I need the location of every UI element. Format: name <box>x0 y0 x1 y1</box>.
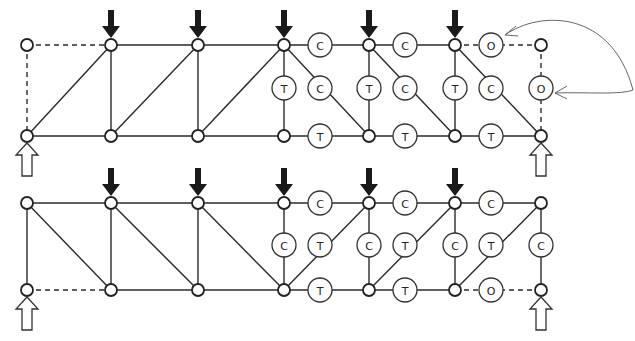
reaction-arrow-icon <box>16 297 38 330</box>
force-label-text: T <box>451 83 459 96</box>
force-label-text: T <box>487 131 495 144</box>
truss-joint <box>449 130 461 142</box>
truss-joint <box>192 197 204 209</box>
force-label: C <box>308 191 332 215</box>
force-label-text: T <box>401 131 409 144</box>
force-label-text: C <box>316 83 324 96</box>
truss-joint <box>21 39 33 51</box>
force-label: T <box>393 124 417 148</box>
force-label: C <box>393 76 417 100</box>
truss-joint <box>192 284 204 296</box>
truss-joint <box>105 197 117 209</box>
load-arrow-icon <box>275 168 293 196</box>
load-arrow-icon <box>275 10 293 38</box>
truss-joint <box>449 197 461 209</box>
force-label: C <box>272 233 296 257</box>
truss-joint <box>278 197 290 209</box>
truss-member <box>27 45 111 136</box>
truss-member <box>198 45 284 136</box>
force-label: C <box>393 33 417 57</box>
truss-member <box>111 45 198 136</box>
load-arrow-icon <box>189 168 207 196</box>
force-label-text: C <box>280 240 288 253</box>
force-label: C <box>443 233 467 257</box>
force-label-text: T <box>365 83 373 96</box>
load-arrow-icon <box>446 168 464 196</box>
force-label: C <box>479 76 503 100</box>
annotation-pointer-icon <box>505 20 633 90</box>
force-label-text: O <box>537 83 546 96</box>
force-label-text: C <box>451 240 459 253</box>
force-label-text: C <box>316 40 324 53</box>
truss-member <box>111 203 198 290</box>
truss-joint <box>105 130 117 142</box>
force-label-text: T <box>401 285 409 298</box>
force-label: T <box>393 278 417 302</box>
reaction-arrow-icon <box>530 143 552 176</box>
truss-joint <box>21 284 33 296</box>
load-arrow-icon <box>102 168 120 196</box>
force-label-text: T <box>487 240 495 253</box>
truss-joint <box>21 197 33 209</box>
force-label: T <box>308 278 332 302</box>
force-label-text: O <box>487 40 496 53</box>
truss-joint <box>363 130 375 142</box>
truss-joint <box>363 39 375 51</box>
load-arrow-icon <box>189 10 207 38</box>
force-label: T <box>308 233 332 257</box>
force-label: O <box>479 33 503 57</box>
force-label: T <box>443 76 467 100</box>
truss-member <box>198 203 284 290</box>
truss-joint <box>105 284 117 296</box>
force-label: T <box>272 76 296 100</box>
force-label: C <box>529 233 553 257</box>
truss-joint <box>21 130 33 142</box>
truss-joint <box>535 130 547 142</box>
force-label: O <box>529 76 553 100</box>
force-label: T <box>393 233 417 257</box>
load-arrow-icon <box>446 10 464 38</box>
force-label: C <box>393 191 417 215</box>
force-label-text: C <box>487 83 495 96</box>
annotation-pointers <box>505 20 633 99</box>
truss-joint <box>278 284 290 296</box>
force-label-text: C <box>316 198 324 211</box>
force-label: C <box>308 33 332 57</box>
truss-joint <box>449 39 461 51</box>
force-label: T <box>357 76 381 100</box>
truss-member <box>27 203 111 290</box>
load-arrow-icon <box>360 10 378 38</box>
force-label: C <box>357 233 381 257</box>
truss-joint <box>105 39 117 51</box>
force-label-text: C <box>401 40 409 53</box>
force-label-text: O <box>487 285 496 298</box>
force-label-text: T <box>316 131 324 144</box>
force-label: T <box>479 233 503 257</box>
load-arrow-icon <box>102 10 120 38</box>
force-label-text: T <box>316 285 324 298</box>
force-label-text: C <box>365 240 373 253</box>
annotation-pointer-icon <box>555 90 633 93</box>
force-label-text: T <box>280 83 288 96</box>
force-label-text: C <box>487 198 495 211</box>
force-label-text: T <box>401 240 409 253</box>
force-label: T <box>479 124 503 148</box>
truss-joint <box>535 197 547 209</box>
force-label-text: C <box>537 240 545 253</box>
load-arrow-icon <box>360 168 378 196</box>
force-label: O <box>479 278 503 302</box>
truss-joint <box>363 197 375 209</box>
truss-joint <box>278 39 290 51</box>
truss-joint <box>192 39 204 51</box>
force-label: C <box>308 76 332 100</box>
truss-joint <box>192 130 204 142</box>
truss-joint <box>278 130 290 142</box>
force-labels: CCOTCTCTCOTTTCCCCTCTCTCTTO <box>272 33 553 302</box>
truss-joint <box>363 284 375 296</box>
force-label-text: C <box>401 83 409 96</box>
force-label: T <box>308 124 332 148</box>
force-label-text: T <box>316 240 324 253</box>
force-label-text: C <box>401 198 409 211</box>
truss-joint <box>535 39 547 51</box>
force-label: C <box>479 191 503 215</box>
